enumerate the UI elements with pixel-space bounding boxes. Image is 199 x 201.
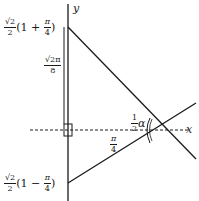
bottom-coef-fraction: √2 2 <box>4 174 16 193</box>
bottom-pi-num: π <box>44 174 51 184</box>
horizontal-distance-label: π 4 <box>110 135 117 154</box>
bottom-paren-open: (1 − <box>16 177 44 190</box>
bottom-pi-fraction: π 4 <box>44 174 51 193</box>
bottom-pi-den: 4 <box>45 184 50 193</box>
segment-num: √2π <box>44 56 61 66</box>
top-coef-den: 2 <box>8 28 13 37</box>
angle-coef-den: 2 <box>132 124 137 133</box>
bottom-vertex-label: √2 2 (1 − π 4 ) <box>4 174 55 193</box>
y-axis-label: y <box>73 3 79 14</box>
distance-fraction: π 4 <box>110 135 117 154</box>
segment-length-label: √2π 8 <box>44 56 61 75</box>
segment-den: 8 <box>50 66 55 75</box>
bottom-coef-den: 2 <box>8 184 13 193</box>
upper-line <box>68 27 196 159</box>
distance-num: π <box>110 135 117 145</box>
bottom-coef-num: √2 <box>4 174 16 184</box>
x-axis-label: x <box>186 124 192 135</box>
top-coef-num: √2 <box>4 18 16 28</box>
angle-label: 1 2 α <box>131 114 146 133</box>
angle-symbol: α <box>138 117 145 130</box>
top-pi-num: π <box>44 18 51 28</box>
top-paren-close: ) <box>51 21 55 34</box>
segment-fraction: √2π 8 <box>44 56 61 75</box>
bottom-paren-close: ) <box>51 177 55 190</box>
top-vertex-label: √2 2 (1 + π 4 ) <box>4 18 55 37</box>
top-pi-fraction: π 4 <box>44 18 51 37</box>
distance-den: 4 <box>111 145 116 154</box>
top-pi-den: 4 <box>45 28 50 37</box>
top-coef-fraction: √2 2 <box>4 18 16 37</box>
top-paren-open: (1 + <box>16 21 44 34</box>
